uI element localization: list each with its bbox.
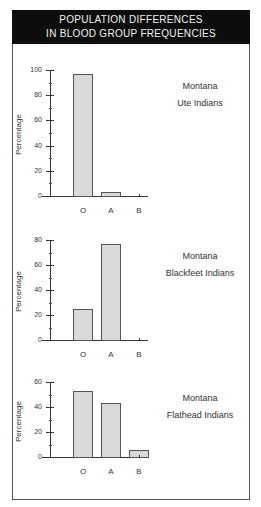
y-tick-label: 60 [24,116,42,123]
x-category-label: A [101,206,121,215]
chart-title-line-1: Montana [150,248,250,265]
figure-header: POPULATION DIFFERENCES IN BLOOD GROUP FR… [12,10,250,44]
x-category-label: A [101,350,121,359]
y-tick-label: 80 [24,236,42,243]
y-tick-label: 20 [24,428,42,435]
bar-o [73,391,93,458]
y-minor-tick [49,253,52,254]
y-tick [46,70,54,71]
chart-title-line-2: Blackfeet Indians [150,265,250,282]
x-axis [42,196,148,197]
y-minor-tick [49,183,52,184]
y-minor-tick [49,328,52,329]
y-minor-tick [49,303,52,304]
y-tick-label: 100 [24,66,42,73]
y-minor-tick [49,158,52,159]
header-line-2: IN BLOOD GROUP FREQUENCIES [12,27,250,41]
bar-o [73,74,93,197]
y-minor-tick [49,420,52,421]
y-tick-label: 40 [24,286,42,293]
y-tick-label: 0 [24,453,42,460]
x-category-label: O [73,206,93,215]
y-tick [46,171,54,172]
y-tick [46,196,54,197]
y-tick [46,457,54,458]
y-axis-label: Percentage [14,271,23,312]
x-category-label: A [101,467,121,476]
x-tick [139,194,140,197]
y-axis-label: Percentage [14,401,23,442]
chart-title-line-2: Ute Indians [150,95,250,112]
bar-a [101,403,121,458]
x-tick [139,338,140,341]
y-minor-tick [49,445,52,446]
y-minor-tick [49,133,52,134]
header-line-1: POPULATION DIFFERENCES [12,13,250,27]
chart-title: Montana Ute Indians [150,78,250,112]
x-category-label: B [129,206,149,215]
y-tick-label: 0 [24,192,42,199]
x-category-label: B [129,350,149,359]
y-tick-label: 40 [24,142,42,149]
y-tick [46,340,54,341]
y-tick-label: 60 [24,261,42,268]
y-minor-tick [49,395,52,396]
y-tick [46,265,54,266]
y-tick [46,407,54,408]
x-axis [42,340,148,341]
y-tick [46,95,54,96]
y-minor-tick [49,278,52,279]
y-tick-label: 20 [24,167,42,174]
y-tick [46,146,54,147]
chart-title-line-1: Montana [150,78,250,95]
y-tick-label: 0 [24,336,42,343]
x-category-label: O [73,350,93,359]
y-tick [46,240,54,241]
y-tick-label: 60 [24,378,42,385]
chart-title: Montana Flathead Indians [150,390,250,424]
y-minor-tick [49,108,52,109]
x-tick [139,455,140,458]
y-minor-tick [49,83,52,84]
y-axis-label: Percentage [14,114,23,155]
y-tick-label: 40 [24,403,42,410]
chart-title: Montana Blackfeet Indians [150,248,250,282]
y-tick [46,382,54,383]
bar-a [101,192,121,197]
y-tick [46,315,54,316]
x-category-label: O [73,467,93,476]
x-category-label: B [129,467,149,476]
y-tick-label: 80 [24,91,42,98]
chart-title-line-2: Flathead Indians [150,407,250,424]
y-tick [46,120,54,121]
y-tick [46,432,54,433]
bar-o [73,309,93,341]
y-tick-label: 20 [24,311,42,318]
y-tick [46,290,54,291]
bar-a [101,244,121,341]
chart-title-line-1: Montana [150,390,250,407]
